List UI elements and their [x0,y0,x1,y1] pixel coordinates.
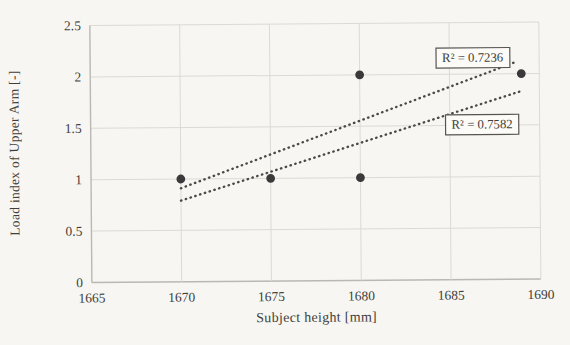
x-tick-label: 1685 [438,288,465,303]
r-squared-annotation: R² = 0.7582 [445,114,518,135]
y-tick-label: 0 [76,275,83,290]
y-axis-line [90,26,92,283]
x-tick-label: 1680 [348,288,375,303]
x-tick-label: 1665 [78,290,105,305]
gridline-vertical [269,24,271,281]
y-tick-label: 2 [74,69,81,84]
gridline-horizontal [91,176,540,180]
trendline-lower [180,91,522,201]
gridline-vertical [359,23,361,280]
x-axis-line [92,279,541,283]
gridline-horizontal [91,228,540,232]
data-point [355,70,364,79]
y-tick-label: 1 [75,172,82,187]
scanned-figure-page: 00.511.522.5166516701675168016851690R² =… [0,0,570,345]
r-squared-label: R² = 0.7582 [452,117,513,131]
x-tick-label: 1690 [527,287,554,302]
chart-plot-area: 00.511.522.5166516701675168016851690R² =… [0,0,570,345]
y-tick-label: 2.5 [64,18,81,33]
r-squared-label: R² = 0.7236 [442,51,504,65]
y-axis-title: Load index of Upper Arm [-] [6,70,23,235]
x-tick-label: 1670 [168,290,195,305]
data-point [176,175,185,184]
y-tick-label: 1.5 [65,121,82,136]
r-squared-annotation: R² = 0.7236 [436,47,510,68]
gridline-horizontal [90,73,539,77]
data-point [266,174,275,183]
x-tick-label: 1675 [258,289,285,304]
gridline-vertical [180,25,182,282]
gridline-vertical [539,22,541,279]
scatter-chart: 00.511.522.5166516701675168016851690R² =… [0,0,570,345]
data-point [517,69,526,78]
data-point [356,173,365,182]
gridline-horizontal [90,22,539,26]
y-tick-label: 0.5 [66,224,83,239]
